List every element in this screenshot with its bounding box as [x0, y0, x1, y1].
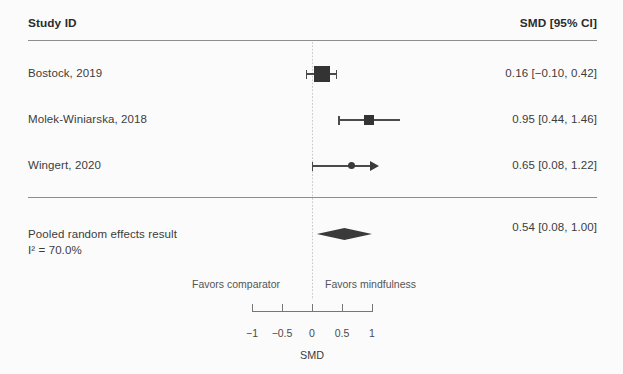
x-axis-tick-0	[312, 304, 313, 312]
ci-truncation-arrow-wingert	[370, 161, 379, 171]
study-estimate-bostock: 0.16 [−0.10, 0.42]	[505, 67, 597, 79]
x-axis-label-neg0-5: −0.5	[272, 327, 293, 339]
ci-cap-right-bostock	[336, 70, 337, 79]
study-label-molek-winiarska: Molek-Winiarska, 2018	[28, 113, 147, 125]
study-label-bostock: Bostock, 2019	[28, 67, 102, 79]
x-axis-label-neg1: −1	[246, 327, 258, 339]
x-axis-label-0: 0	[309, 327, 315, 339]
ci-cap-left-molek-winiarska	[338, 116, 339, 125]
x-axis-label-0-5: 0.5	[335, 327, 350, 339]
ci-cap-left-bostock	[306, 70, 307, 79]
x-axis-tick-neg0-5	[282, 304, 283, 312]
x-axis-tick-neg1	[252, 304, 253, 312]
study-estimate-wingert: 0.65 [0.08, 1.22]	[512, 159, 597, 171]
column-header-study-id: Study ID	[28, 16, 77, 30]
pooled-estimate: 0.54 [0.08, 1.00]	[512, 221, 597, 233]
header-rule	[28, 40, 597, 41]
x-axis-label-1: 1	[369, 327, 375, 339]
column-header-smd-ci: SMD [95% CI]	[520, 16, 597, 30]
effect-marker-wingert	[348, 162, 355, 169]
favors-comparator-label: Favors comparator	[192, 278, 280, 290]
study-estimate-molek-winiarska: 0.95 [0.44, 1.46]	[512, 113, 597, 125]
x-axis-title: SMD	[300, 349, 324, 361]
pooled-label: Pooled random effects result	[28, 228, 177, 240]
effect-marker-molek-winiarska	[364, 115, 374, 125]
pooled-heterogeneity: I² = 70.0%	[28, 244, 82, 256]
x-axis-tick-0-5	[342, 304, 343, 312]
study-label-wingert: Wingert, 2020	[28, 159, 101, 171]
favors-mindfulness-label: Favors mindfulness	[325, 278, 416, 290]
x-axis-tick-1	[372, 304, 373, 312]
effect-marker-bostock	[314, 66, 330, 82]
pooled-separator-rule	[28, 197, 597, 198]
pooled-diamond-marker	[317, 228, 372, 240]
forest-plot: Study ID SMD [95% CI] Bostock, 2019 0.16…	[0, 0, 623, 374]
ci-cap-left-wingert	[312, 162, 313, 171]
ci-line-wingert	[312, 165, 372, 166]
